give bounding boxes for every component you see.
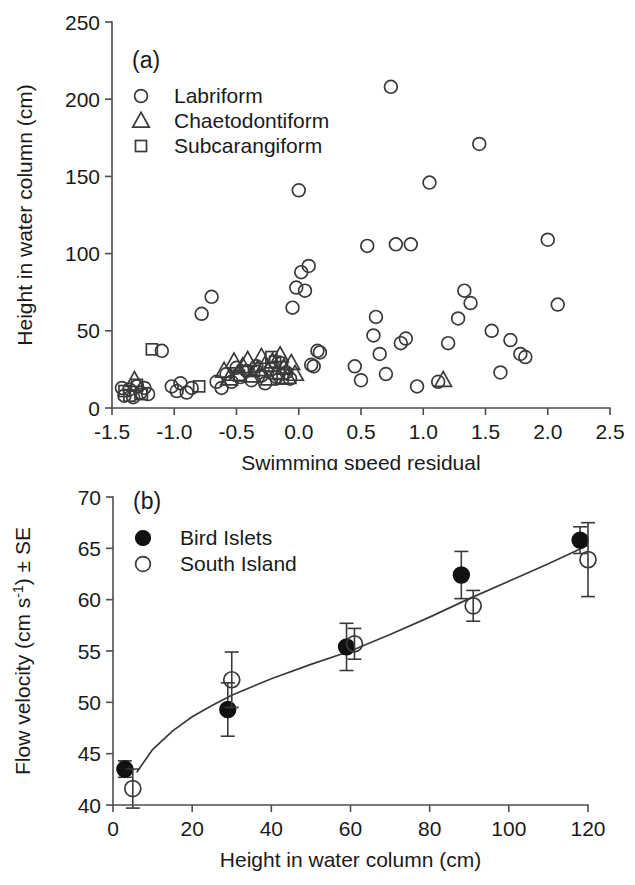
data-point [485,324,498,337]
x-tick-label: -1.0 [156,420,192,443]
legend-marker-circle-open [135,90,148,103]
legend-item[interactable]: South Island [136,552,297,575]
y-tick-label: 50 [78,691,101,714]
data-point [473,138,486,151]
y-tick-label: 200 [65,88,100,111]
x-axis-ticks: 020406080100120 [107,805,605,840]
y-tick-label: 250 [65,11,100,34]
x-tick-label: 100 [491,817,526,840]
y-tick-label: 45 [78,742,101,765]
x-tick-label: 40 [260,817,283,840]
x-tick-label: 120 [570,817,605,840]
data-point [541,233,554,246]
data-point [348,360,361,373]
data-point [452,312,465,325]
error-bar [225,652,239,707]
data-point [453,567,469,583]
data-point [355,374,368,387]
data-point [411,380,424,393]
data-point [551,298,564,311]
data-point [367,329,380,342]
y-tick-label: 65 [78,537,101,560]
x-tick-label: 2.0 [533,420,562,443]
data-point [423,176,436,189]
legend-item[interactable]: Chaetodontiform [133,109,330,132]
data-point [195,307,208,320]
legend-label: Subcarangiform [174,134,322,157]
figure-root: 050100150200250-1.5-1.0-0.50.00.51.01.52… [0,0,635,885]
panel-b-legend: Bird IsletsSouth Island [136,526,297,575]
legend-item[interactable]: Labriform [135,84,263,107]
x-tick-label: 20 [180,817,203,840]
y-axis-title: Flow velocity (cm s-1) ± SE [10,527,34,775]
x-tick-label: 60 [339,817,362,840]
x-axis-ticks: -1.5-1.0-0.50.00.51.01.52.02.5 [94,408,625,443]
data-point [205,290,218,303]
x-tick-label: 0.5 [346,420,375,443]
y-tick-label: 0 [88,397,100,420]
panel-b-chart: 40455055606570020406080100120Height in w… [0,465,635,885]
panel-a-chart: 050100150200250-1.5-1.0-0.50.00.51.01.52… [0,0,635,470]
legend-item[interactable]: Subcarangiform [135,134,322,157]
data-point [494,366,507,379]
legend-label: Chaetodontiform [174,109,329,132]
x-axis-title: Height in water column (cm) [220,848,481,871]
fit-curve [137,545,588,772]
legend-label: Labriform [174,84,263,107]
panel-label-b: (b) [133,488,161,514]
legend-marker-triangle-open [133,112,150,127]
y-axis-ticks: 050100150200250 [65,11,112,420]
y-tick-label: 40 [78,794,101,817]
data-point [464,297,477,310]
legend-label: Bird Islets [180,526,272,549]
y-tick-label: 50 [77,319,100,342]
y-tick-label: 60 [78,588,101,611]
data-point [286,301,299,314]
y-tick-label: 55 [78,640,101,663]
panel-a-legend: LabriformChaetodontiformSubcarangiform [133,84,330,157]
data-point [504,334,517,347]
legend-marker-circle-filled [136,531,151,546]
y-tick-label: 150 [65,165,100,188]
data-point [442,337,455,350]
svg-text:Flow velocity (cm s-1) ± SE: Flow velocity (cm s-1) ± SE [10,527,34,775]
data-point [373,348,386,361]
data-point [380,368,393,381]
x-tick-label: 80 [418,817,441,840]
data-point [458,284,471,297]
data-point [290,281,303,294]
x-tick-label: 0.0 [284,420,313,443]
legend-item[interactable]: Bird Islets [136,526,273,549]
x-tick-label: 0 [107,817,119,840]
legend-label: South Island [180,552,297,575]
y-tick-label: 100 [65,242,100,265]
data-point [404,238,417,251]
y-tick-label: 70 [78,486,101,509]
data-point [572,532,588,548]
data-point [370,311,383,324]
panel-a-axes [112,22,610,408]
legend-marker-circle-open [136,557,151,572]
data-point [384,80,397,93]
y-axis-ticks: 40455055606570 [78,486,113,817]
x-tick-label: 2.5 [595,420,624,443]
data-point [220,702,236,718]
data-point [361,239,374,252]
x-tick-label: 1.5 [471,420,500,443]
x-tick-label: -0.5 [218,420,254,443]
data-point [389,238,402,251]
panel-label-a: (a) [132,47,160,73]
x-tick-label: 1.0 [409,420,438,443]
y-axis-title: Height in water column (cm) [13,84,36,345]
data-point [292,184,305,197]
x-tick-label: -1.5 [94,420,130,443]
legend-marker-square-open [135,140,146,151]
data-point [299,284,312,297]
